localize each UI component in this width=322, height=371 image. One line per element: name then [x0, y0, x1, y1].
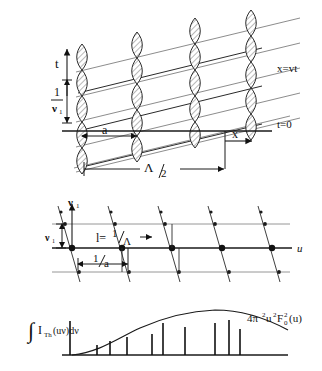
envelope-label-F-sub: 0: [284, 319, 288, 327]
intensity-label-sub: Th: [44, 331, 52, 339]
nu1-tick-subscript: 1: [52, 238, 55, 244]
t-axis-label: t: [55, 56, 59, 71]
l-label-denominator: Λ: [123, 235, 131, 247]
figure-root: t 1 ν 1 a x=vt t=0 x Λ 2: [0, 0, 322, 371]
figure-svg: t 1 ν 1 a x=vt t=0 x Λ 2: [0, 0, 322, 371]
inv-a-denominator: a: [104, 257, 109, 269]
l-label-numerator: 1: [112, 227, 118, 239]
t0-line-label: t=0: [277, 118, 292, 130]
x-axis-label: x: [232, 127, 238, 141]
envelope-label-arg: (u): [289, 312, 302, 325]
nu-axis-subscript: 1: [76, 202, 80, 210]
a-spacing-label: a: [102, 123, 108, 137]
intensity-label-arg: (uν)dν: [53, 325, 79, 337]
envelope-label-u: u: [266, 312, 272, 324]
envelope-label-F-sup: 2: [284, 311, 288, 319]
envelope-label-F: F: [277, 312, 283, 324]
envelope-label-coef: 4π: [247, 312, 259, 324]
helix-column: [132, 32, 143, 162]
nu-axis-label: ν: [67, 196, 73, 208]
inv-a-numerator: 1: [93, 252, 99, 264]
xvt-line-label: x=vt: [277, 62, 297, 74]
helix-column: [246, 10, 257, 140]
intensity-label-main: I: [38, 323, 42, 337]
lambda-half-numerator: Λ: [144, 160, 154, 175]
nu1-tick-label: ν: [44, 232, 50, 243]
u-axis-label: u: [297, 242, 303, 254]
helix-column: [190, 18, 201, 148]
period-label-denominator: ν: [51, 102, 57, 114]
period-label-numerator: 1: [54, 85, 60, 99]
l-label-prefix: l=: [96, 231, 106, 245]
period-label-subscript: 1: [59, 108, 63, 116]
helix-column: [77, 44, 88, 174]
